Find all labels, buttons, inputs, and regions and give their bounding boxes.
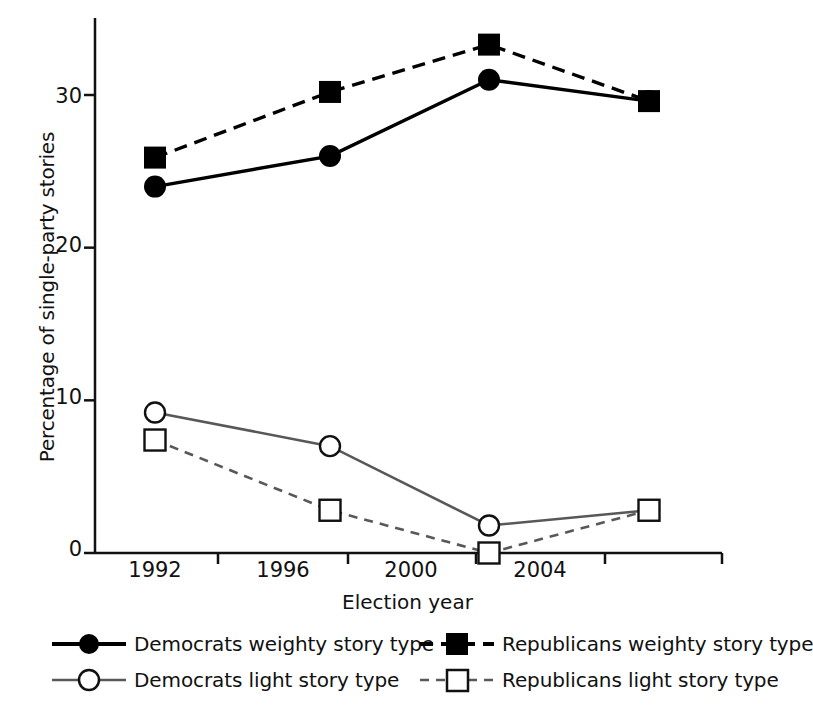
series-republicans-light-story-type — [145, 430, 660, 564]
data-point[interactable] — [145, 430, 166, 451]
series-layer — [144, 34, 660, 564]
data-point[interactable] — [478, 34, 500, 56]
legend-item-democrats-light[interactable]: Democrats light story type — [50, 664, 399, 696]
data-point[interactable] — [638, 90, 660, 112]
legend-key-filled-circle-solid — [50, 631, 128, 657]
legend-item-republicans-weighty[interactable]: Republicans weighty story type — [418, 628, 813, 660]
data-point[interactable] — [320, 500, 341, 521]
data-point[interactable] — [319, 145, 341, 167]
legend-label-republicans-weighty: Republicans weighty story type — [502, 632, 813, 656]
legend-item-republicans-light[interactable]: Republicans light story type — [418, 664, 779, 696]
series-line — [155, 413, 649, 526]
data-point[interactable] — [320, 436, 340, 456]
plot-area — [0, 0, 757, 620]
y-tick-marks — [84, 95, 95, 553]
legend-label-republicans-light: Republicans light story type — [502, 668, 779, 692]
legend-label-democrats-weighty: Democrats weighty story type — [134, 632, 434, 656]
data-point[interactable] — [319, 81, 341, 103]
data-point[interactable] — [478, 69, 500, 91]
data-point[interactable] — [479, 543, 500, 564]
data-point[interactable] — [479, 516, 499, 536]
data-point[interactable] — [639, 500, 660, 521]
legend-key-open-circle-solid — [50, 667, 128, 693]
data-point[interactable] — [145, 403, 165, 423]
legend-key-filled-square-dashed — [418, 631, 496, 657]
legend-label-democrats-light: Democrats light story type — [134, 668, 399, 692]
series-line — [155, 440, 649, 553]
data-point[interactable] — [144, 147, 166, 169]
legend-key-open-square-dashed — [418, 667, 496, 693]
series-democrats-light-story-type — [145, 403, 659, 536]
series-line — [155, 45, 649, 158]
chart-legend: Democrats weighty story type Republicans… — [30, 628, 750, 700]
legend-item-democrats-weighty[interactable]: Democrats weighty story type — [50, 628, 434, 660]
data-point[interactable] — [144, 176, 166, 198]
x-tick-marks — [218, 553, 722, 564]
series-line — [155, 80, 649, 187]
series-republicans-weighty-story-type — [144, 34, 660, 169]
